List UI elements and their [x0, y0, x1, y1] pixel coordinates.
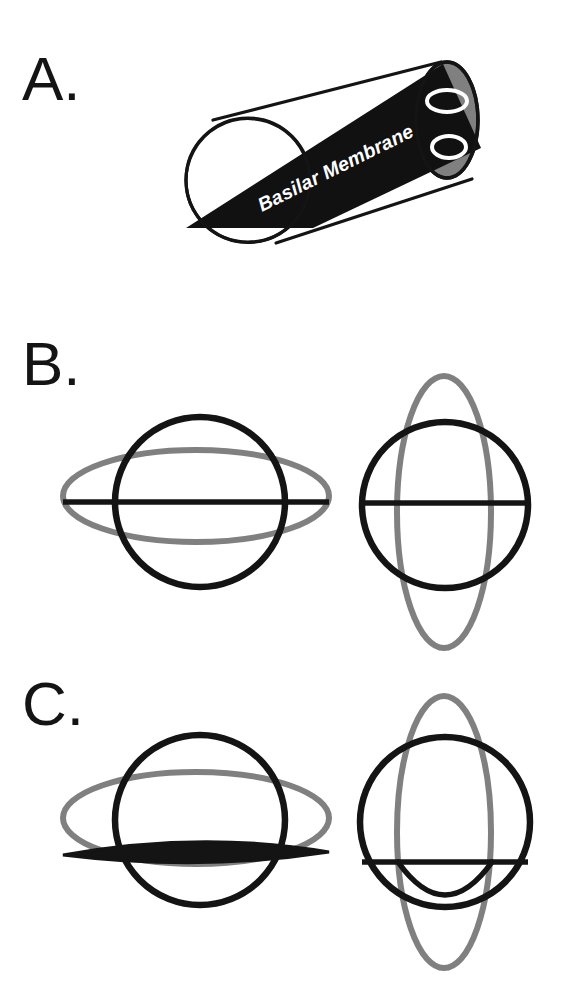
panel-a-label: A. [22, 44, 81, 113]
panel-b-label: B. [22, 329, 81, 398]
figure-root: A. Basilar Membrane [0, 0, 561, 993]
panel-c-label: C. [22, 669, 84, 738]
figure-canvas: A. Basilar Membrane [0, 0, 561, 993]
